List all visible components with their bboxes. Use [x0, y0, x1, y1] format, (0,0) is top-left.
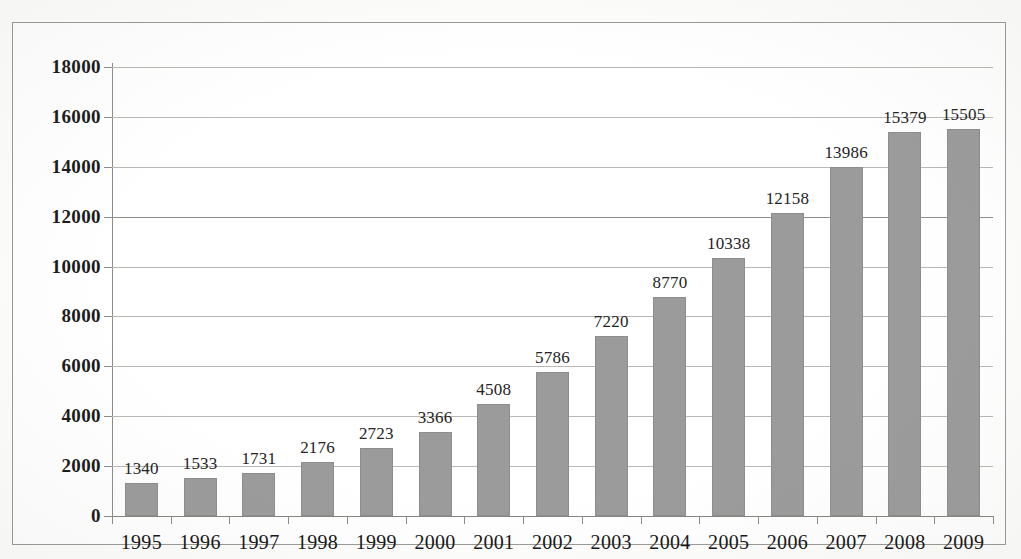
bar-value-label: 15505 — [942, 105, 986, 125]
x-tick — [406, 516, 407, 524]
x-tick — [934, 516, 935, 524]
y-tick-14000 — [104, 167, 112, 168]
bar-value-label: 8770 — [653, 273, 688, 293]
x-tick — [288, 516, 289, 524]
y-axis-labels: 0200040006000800010000120001400016000180… — [13, 67, 101, 516]
bar-value-label: 7220 — [594, 312, 629, 332]
x-axis-category-label: 2000 — [414, 531, 455, 554]
bar-value-label: 2176 — [300, 438, 335, 458]
y-axis-tick-label: 18000 — [52, 56, 102, 78]
bar-value-label: 2723 — [359, 424, 394, 444]
x-axis-category-label: 1996 — [179, 531, 220, 554]
bar-value-label: 4508 — [476, 380, 511, 400]
plot-area: 1340153317312176272333664508578672208770… — [112, 67, 993, 516]
gridline-16000 — [112, 117, 993, 118]
y-axis-tick-label: 0 — [91, 505, 101, 527]
x-tick — [876, 516, 877, 524]
y-tick-6000 — [104, 366, 112, 367]
x-tick — [641, 516, 642, 524]
x-axis-category-label: 2001 — [473, 531, 514, 554]
x-axis-category-label: 1995 — [121, 531, 162, 554]
bar[interactable] — [477, 404, 510, 516]
y-axis-tick-label: 16000 — [52, 106, 102, 128]
x-tick — [699, 516, 700, 524]
y-axis-tick-label: 12000 — [52, 206, 102, 228]
x-axis-category-label: 2005 — [708, 531, 749, 554]
bar[interactable] — [712, 258, 745, 516]
x-tick — [817, 516, 818, 524]
bar[interactable] — [888, 132, 921, 516]
bar[interactable] — [125, 483, 158, 516]
x-axis-category-label: 2003 — [591, 531, 632, 554]
bar[interactable] — [184, 478, 217, 516]
x-axis-category-label: 2002 — [532, 531, 573, 554]
bar-value-label: 5786 — [535, 348, 570, 368]
x-tick — [464, 516, 465, 524]
bar[interactable] — [419, 432, 452, 516]
x-tick — [171, 516, 172, 524]
bar-value-label: 1340 — [124, 459, 159, 479]
y-tick-10000 — [104, 267, 112, 268]
chart-frame: 0200040006000800010000120001400016000180… — [12, 22, 1006, 545]
category-axis-line — [112, 516, 993, 517]
x-axis-category-label: 2004 — [649, 531, 690, 554]
bar-value-label: 10338 — [707, 234, 751, 254]
y-tick-16000 — [104, 117, 112, 118]
bar-value-label: 3366 — [418, 408, 453, 428]
y-axis-tick-label: 8000 — [61, 305, 101, 327]
bar-value-label: 1731 — [241, 449, 276, 469]
bar[interactable] — [301, 462, 334, 516]
bar[interactable] — [771, 213, 804, 516]
bar[interactable] — [536, 372, 569, 516]
y-axis-tick-label: 14000 — [52, 156, 102, 178]
x-axis-category-label: 2007 — [826, 531, 867, 554]
bar-value-label: 13986 — [824, 143, 868, 163]
bar[interactable] — [653, 297, 686, 516]
bar-value-label: 1533 — [183, 454, 218, 474]
y-tick-4000 — [104, 416, 112, 417]
bar[interactable] — [595, 336, 628, 516]
x-axis-category-label: 1999 — [356, 531, 397, 554]
bar-value-label: 12158 — [766, 189, 810, 209]
y-axis-tick-label: 2000 — [61, 455, 101, 477]
y-tick-2000 — [104, 466, 112, 467]
x-tick — [229, 516, 230, 524]
bar[interactable] — [947, 129, 980, 516]
x-tick — [112, 516, 113, 524]
y-axis-tick-label: 6000 — [61, 355, 101, 377]
bar[interactable] — [360, 448, 393, 516]
y-tick-18000 — [104, 67, 112, 68]
y-axis-tick-label: 4000 — [61, 405, 101, 427]
x-tick — [758, 516, 759, 524]
x-axis-category-label: 2006 — [767, 531, 808, 554]
x-tick — [582, 516, 583, 524]
bar-value-label: 15379 — [883, 108, 927, 128]
y-tick-12000 — [104, 217, 112, 218]
x-axis-category-label: 1998 — [297, 531, 338, 554]
x-tick — [993, 516, 994, 524]
gridline-18000 — [112, 67, 993, 68]
bar[interactable] — [830, 167, 863, 516]
x-tick — [347, 516, 348, 524]
x-tick — [523, 516, 524, 524]
y-tick-0 — [104, 516, 112, 517]
x-axis-category-label: 2009 — [943, 531, 984, 554]
bar[interactable] — [242, 473, 275, 516]
x-axis-category-label: 2008 — [884, 531, 925, 554]
x-axis-category-label: 1997 — [238, 531, 279, 554]
scanned-page: 0200040006000800010000120001400016000180… — [0, 0, 1021, 559]
y-axis-tick-label: 10000 — [52, 256, 102, 278]
y-tick-8000 — [104, 316, 112, 317]
